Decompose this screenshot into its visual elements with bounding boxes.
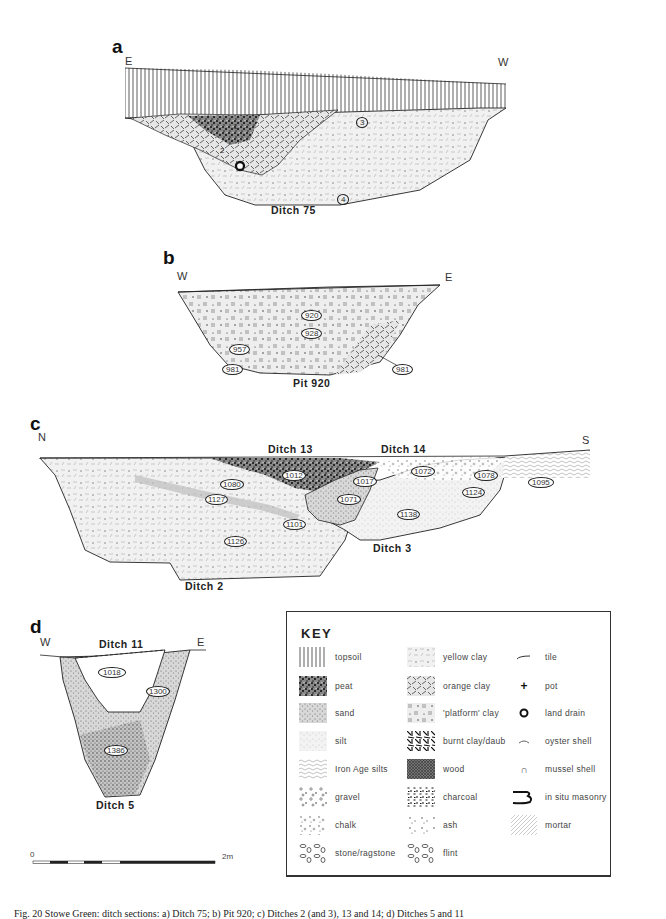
chalk-swatch	[299, 815, 327, 835]
ash-swatch	[407, 815, 435, 835]
context-label: 1072	[411, 466, 435, 477]
context-label: 1018	[98, 667, 126, 678]
panel-a-left-direction: E	[125, 55, 132, 67]
ditch-5-label: Ditch 5	[96, 799, 135, 811]
key-item-stone-ragstone: stone/ragstone	[299, 842, 395, 864]
charcoal-swatch	[407, 787, 435, 807]
key-item-yellow-clay: yellow clay	[407, 646, 487, 668]
ditch-14-label: Ditch 14	[381, 443, 426, 455]
key-item-iron-age-silts: Iron Age silts	[299, 758, 388, 780]
key-item-oyster-shell: oyster shell	[511, 730, 592, 752]
wood-swatch	[407, 759, 435, 779]
panel-d-letter: d	[30, 616, 42, 638]
key-item-burnt-clay: burnt clay/daub	[407, 730, 506, 752]
key-item-orange-clay: orange clay	[407, 675, 490, 697]
gravel-swatch	[299, 787, 327, 807]
key-item-tile: tile	[511, 646, 557, 668]
context-label: 1080	[220, 479, 244, 490]
context-label: 1071	[337, 494, 361, 505]
panel-a-right-direction: W	[498, 56, 508, 68]
key-item-flint: flint	[407, 842, 458, 864]
burnt-clay-swatch	[407, 731, 435, 751]
pot-icon: +	[511, 676, 537, 696]
iron-age-silts-swatch	[299, 759, 327, 779]
context-label: 1386	[104, 745, 128, 756]
flint-swatch	[407, 843, 435, 863]
context-label: 1127	[205, 494, 228, 505]
section-c-drawing	[40, 450, 590, 580]
scale-end-label: 2m	[222, 852, 233, 861]
peat-swatch	[299, 676, 327, 696]
stone-swatch	[299, 843, 327, 863]
key-item-wood: wood	[407, 758, 465, 780]
figure-caption: Fig. 20 Stowe Green: ditch sections: a) …	[14, 908, 464, 919]
platform-clay-swatch	[407, 703, 435, 723]
topsoil-swatch	[299, 647, 327, 667]
key-item-sand: sand	[299, 702, 355, 724]
key-item-pot: + pot	[511, 675, 558, 697]
ditch-11-label: Ditch 11	[99, 638, 143, 650]
context-label: 1124	[462, 487, 485, 498]
yellow-clay-swatch	[407, 647, 435, 667]
section-a-drawing	[125, 68, 506, 205]
context-label: 1	[233, 122, 237, 131]
ditch-13-label: Ditch 13	[268, 443, 313, 455]
context-label: 1300	[146, 686, 170, 697]
mortar-icon	[511, 815, 537, 835]
key-item-chalk: chalk	[299, 814, 356, 836]
mussel-shell-icon: ∩	[511, 759, 537, 779]
context-label: 1078	[474, 470, 498, 481]
panel-c-left-direction: N	[38, 431, 46, 443]
key-item-charcoal: charcoal	[407, 786, 478, 808]
tile-icon	[511, 647, 537, 667]
ditch-2-label: Ditch 2	[185, 580, 224, 592]
panel-b-left-direction: W	[177, 270, 187, 282]
context-label: 2	[220, 146, 224, 155]
silt-swatch	[299, 731, 327, 751]
key-item-topsoil: topsoil	[299, 646, 362, 668]
scale-start-label: 0	[30, 850, 34, 859]
key-item-ash: ash	[407, 814, 458, 836]
orange-clay-swatch	[407, 676, 435, 696]
panel-a-section-label: Ditch 75	[271, 204, 316, 216]
land-drain-icon	[511, 703, 537, 723]
key-item-in-situ-masonry: in situ masonry	[511, 786, 607, 808]
panel-c-right-direction: S	[582, 434, 589, 446]
masonry-icon	[511, 787, 537, 807]
ditch-3-label: Ditch 3	[373, 542, 412, 554]
key-item-silt: silt	[299, 730, 347, 752]
sand-swatch	[299, 703, 327, 723]
panel-d-left-direction: W	[40, 636, 50, 648]
scale-bar	[33, 861, 215, 864]
context-label: 1012	[282, 470, 306, 481]
panel-d-right-direction: E	[197, 636, 204, 648]
oyster-shell-icon	[511, 731, 537, 751]
context-label: 1101	[283, 519, 306, 530]
context-label: 1138	[397, 509, 420, 520]
context-label: 1126	[224, 536, 247, 547]
key-item-peat: peat	[299, 675, 353, 697]
land-drain-icon	[236, 162, 244, 170]
key-item-mortar: mortar	[511, 814, 571, 836]
key-item-land-drain: land drain	[511, 702, 585, 724]
panel-b-letter: b	[163, 247, 175, 269]
context-label: 1095	[528, 477, 554, 488]
context-label: 1017	[353, 476, 377, 487]
key-item-platform-clay: 'platform' clay	[407, 702, 499, 724]
key-title: KEY	[301, 626, 332, 641]
key-item-mussel-shell: ∩ mussel shell	[511, 758, 595, 780]
panel-b-right-direction: E	[445, 271, 452, 283]
legend-key: KEY topsoil peat sand silt Iron Age silt…	[286, 611, 611, 877]
panel-a-letter: a	[112, 36, 123, 58]
panel-b-section-label: Pit 920	[293, 377, 330, 389]
key-item-gravel: gravel	[299, 786, 360, 808]
